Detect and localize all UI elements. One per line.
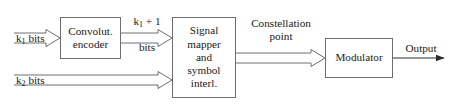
edge-label-k1-bits: k1 bits (16, 19, 72, 46)
edge-label-k2-bits-rest: bits (26, 74, 45, 86)
block-modulator[interactable]: Modulator (325, 38, 393, 78)
block-signal-mapper-label: Signal mapper and symbol interl. (187, 24, 221, 90)
edge-label-k1-plus-1-bits: k1 + 1 bits (119, 2, 175, 54)
edge-label-k1-plus-1-line2: bits (139, 41, 155, 53)
block-modulator-label: Modulator (335, 51, 382, 64)
block-convolutional-encoder-label: Convolut. encoder (68, 25, 112, 51)
block-signal-mapper-and-symbol-interleaver[interactable]: Signal mapper and symbol interl. (172, 17, 236, 98)
edge-label-k1-bits-rest: bits (26, 32, 45, 44)
edge-label-k2-bits: k2 bits (16, 61, 72, 88)
edge-label-constellation-point: Constellation point (238, 17, 324, 42)
edge-label-output: Output (398, 42, 444, 55)
arrow-mapper-to-modulator (236, 50, 325, 67)
edge-label-k1-plus-1-rest: + 1 (143, 15, 161, 27)
block-diagram-canvas: Convolut. encoder Signal mapper and symb… (0, 0, 454, 108)
